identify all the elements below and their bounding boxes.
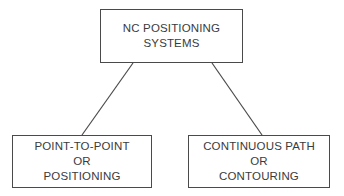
node-root-line-1: NC POSITIONING <box>123 21 220 36</box>
connector-root-to-continuous-path <box>212 63 262 135</box>
node-left-line-2: OR <box>73 154 91 169</box>
node-left-line-3: POSITIONING <box>43 169 120 184</box>
node-point-to-point: POINT-TO-POINT OR POSITIONING <box>12 135 152 188</box>
connector-root-to-point-to-point <box>82 63 133 135</box>
node-left-line-1: POINT-TO-POINT <box>34 139 129 154</box>
node-nc-positioning-systems: NC POSITIONING SYSTEMS <box>100 9 243 63</box>
node-right-line-2: OR <box>250 154 268 169</box>
node-right-line-1: CONTINUOUS PATH <box>203 139 315 154</box>
node-right-line-3: CONTOURING <box>219 169 299 184</box>
node-root-line-2: SYSTEMS <box>143 36 199 51</box>
node-continuous-path: CONTINUOUS PATH OR CONTOURING <box>188 135 330 188</box>
diagram-canvas: NC POSITIONING SYSTEMS POINT-TO-POINT OR… <box>0 0 344 196</box>
